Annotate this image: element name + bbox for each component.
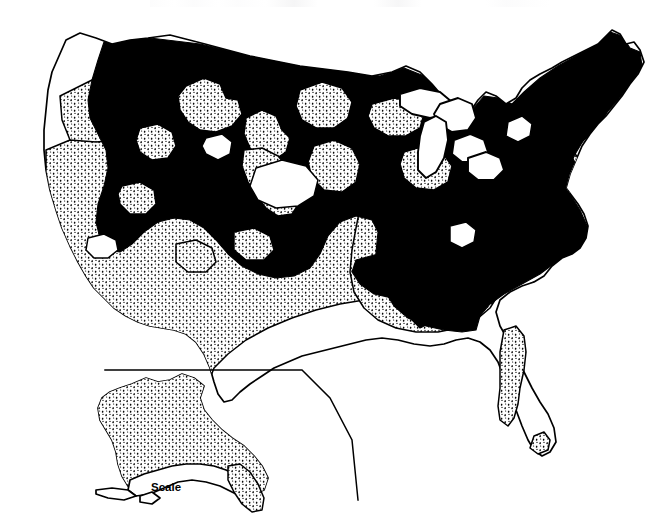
- scale-label: Scale: [151, 481, 181, 493]
- us-distribution-map: Scale: [0, 0, 671, 525]
- map-figure: Scale: [0, 0, 671, 525]
